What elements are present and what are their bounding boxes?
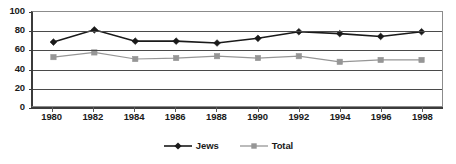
chart-legend: JewsTotal <box>0 140 456 152</box>
y-axis-tick-label: 0 <box>0 102 30 112</box>
x-axis-tick-label: 1980 <box>41 112 62 122</box>
data-point-marker <box>378 57 383 62</box>
data-point-marker <box>296 54 301 59</box>
x-axis-tick-labels: 1980198219841986198819901992199419961998 <box>31 112 443 128</box>
x-axis-tick-mark <box>340 107 341 112</box>
series-total <box>51 50 424 65</box>
line-chart: 100806040200 198019821984198619881990199… <box>0 0 456 164</box>
legend-entry-total[interactable]: Total <box>239 140 294 152</box>
legend-label: Jews <box>196 141 219 151</box>
data-point-marker <box>173 55 178 60</box>
y-axis-tick-label: 20 <box>0 83 30 93</box>
data-point-marker <box>255 35 262 42</box>
data-point-marker <box>419 57 424 62</box>
x-axis-tick-mark <box>52 107 53 112</box>
x-axis-tick-mark <box>258 107 259 112</box>
gridline <box>33 89 442 90</box>
x-axis-tick-mark <box>93 107 94 112</box>
x-axis-tick-label: 1982 <box>82 112 103 122</box>
data-point-marker <box>133 56 138 61</box>
series-layer <box>33 12 442 106</box>
x-axis-tick-label: 1996 <box>371 112 392 122</box>
y-axis-tick-mark <box>29 12 33 13</box>
x-axis-tick-label: 1988 <box>206 112 227 122</box>
data-point-marker <box>337 59 342 64</box>
x-axis-tick-label: 1998 <box>412 112 433 122</box>
x-axis-tick-label: 1994 <box>330 112 351 122</box>
series-jews <box>50 27 425 47</box>
gridline <box>33 50 442 51</box>
data-point-marker <box>91 27 98 34</box>
series-line <box>53 52 421 61</box>
data-point-marker <box>255 55 260 60</box>
data-point-marker <box>377 33 384 40</box>
data-point-marker <box>51 54 56 59</box>
data-point-marker <box>132 38 139 45</box>
x-axis-tick-mark <box>299 107 300 112</box>
data-point-marker <box>214 40 221 47</box>
legend-diamond-marker-icon <box>163 140 193 152</box>
x-axis-tick-label: 1986 <box>165 112 186 122</box>
legend-label: Total <box>272 141 294 151</box>
x-axis-tick-label: 1984 <box>124 112 145 122</box>
legend-square-marker-icon <box>239 140 269 152</box>
y-axis-tick-label: 60 <box>0 44 30 54</box>
gridline <box>33 70 442 71</box>
x-axis-tick-label: 1990 <box>247 112 268 122</box>
x-axis-tick-mark <box>134 107 135 112</box>
y-axis-tick-label: 100 <box>0 6 30 16</box>
data-point-marker <box>173 38 180 45</box>
gridline <box>33 31 442 32</box>
data-point-marker <box>50 39 57 46</box>
x-axis-tick-mark <box>422 107 423 112</box>
plot-area <box>31 11 443 107</box>
x-axis-tick-label: 1992 <box>288 112 309 122</box>
x-axis-tick-mark <box>175 107 176 112</box>
x-axis-tick-mark <box>216 107 217 112</box>
data-point-marker <box>214 54 219 59</box>
x-axis-tick-mark <box>381 107 382 112</box>
legend-entry-jews[interactable]: Jews <box>163 140 219 152</box>
y-axis-tick-label: 40 <box>0 64 30 74</box>
y-axis-tick-label: 80 <box>0 25 30 35</box>
